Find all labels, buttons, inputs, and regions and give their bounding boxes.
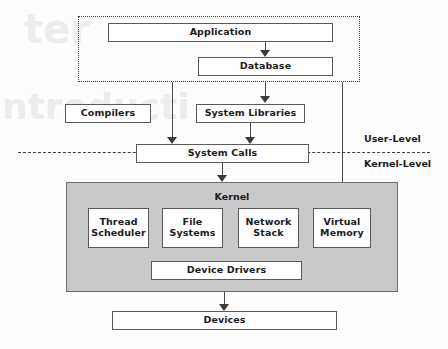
thread-scheduler-line2: Scheduler [91, 227, 146, 238]
node-system-libraries[interactable]: System Libraries [196, 104, 305, 123]
node-system-calls[interactable]: System Calls [136, 144, 309, 163]
node-thread-scheduler[interactable]: Thread Scheduler [88, 208, 149, 248]
node-device-drivers[interactable]: Device Drivers [151, 261, 302, 280]
node-network-stack[interactable]: Network Stack [238, 208, 299, 248]
node-file-systems[interactable]: File Systems [162, 208, 223, 248]
file-systems-line2: Systems [170, 227, 216, 238]
arrowhead-system-libraries-to-system-calls [245, 137, 255, 144]
network-stack-line2: Stack [253, 227, 283, 238]
label-kernel-level: Kernel-Level [364, 158, 431, 169]
arrowhead-kernel-to-devices [219, 304, 229, 311]
node-devices[interactable]: Devices [112, 311, 337, 330]
arrowhead-database-to-system-libraries [260, 96, 270, 103]
node-compilers[interactable]: Compilers [65, 104, 151, 123]
network-stack-line1: Network [246, 216, 292, 227]
thread-scheduler-line1: Thread [99, 216, 137, 227]
system-stack-diagram: ter ntroducti Application Database Compi… [0, 0, 448, 349]
file-systems-line1: File [183, 216, 203, 227]
arrowhead-application-to-system-calls [167, 137, 177, 144]
node-database[interactable]: Database [198, 57, 333, 76]
node-virtual-memory[interactable]: Virtual Memory [313, 208, 371, 248]
label-user-level: User-Level [364, 133, 421, 144]
virtual-memory-line1: Virtual [324, 216, 361, 227]
edge-application-to-system-calls [172, 82, 173, 139]
node-application[interactable]: Application [108, 23, 333, 42]
virtual-memory-line2: Memory [320, 227, 364, 238]
arrowhead-application-to-database [260, 50, 270, 57]
kernel-title: Kernel [67, 191, 397, 202]
arrowhead-system-calls-to-kernel [217, 175, 227, 182]
